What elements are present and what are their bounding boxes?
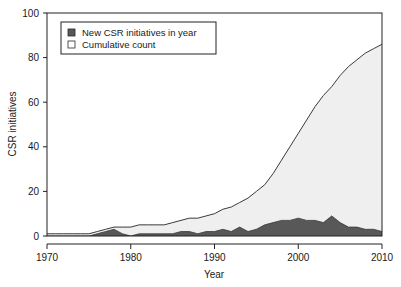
y-tick-label: 100 xyxy=(22,8,39,19)
y-tick-label: 0 xyxy=(33,231,39,242)
csr-initiatives-area-chart: 020406080100 19701980199020002010 CSR in… xyxy=(0,0,401,287)
y-tick-label: 80 xyxy=(28,52,40,63)
chart-figure: 020406080100 19701980199020002010 CSR in… xyxy=(0,0,401,287)
x-tick-label: 1990 xyxy=(203,252,226,263)
legend-marker-cumulative-count xyxy=(68,41,75,48)
x-axis-title: Year xyxy=(204,269,225,280)
x-tick-label: 1970 xyxy=(36,252,59,263)
legend: New CSR initiatives in year Cumulative c… xyxy=(61,22,216,54)
y-tick-label: 20 xyxy=(28,186,40,197)
x-tick-label: 2000 xyxy=(287,252,310,263)
legend-label-cumulative-count: Cumulative count xyxy=(82,39,156,50)
x-tick-label: 2010 xyxy=(371,252,394,263)
legend-marker-new-initiatives xyxy=(68,29,75,36)
x-tick-label: 1980 xyxy=(120,252,143,263)
y-axis-title: CSR initiatives xyxy=(7,91,18,156)
y-tick-label: 40 xyxy=(28,141,40,152)
legend-label-new-initiatives: New CSR initiatives in year xyxy=(82,27,197,38)
y-tick-label: 60 xyxy=(28,97,40,108)
